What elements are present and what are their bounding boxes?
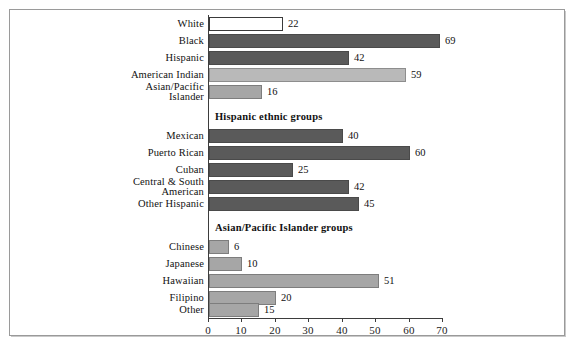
- bar-black: [209, 34, 440, 48]
- axis-tick-label-50: 50: [362, 324, 388, 336]
- axis-tick-70: [442, 318, 443, 322]
- axis-tick-60: [409, 318, 410, 322]
- bar-value-hawaiian: 51: [384, 275, 395, 286]
- axis-tick-label-20: 20: [262, 324, 288, 336]
- group-header-asian-pacific-islander: Asian/Pacific Islander groups: [215, 222, 353, 233]
- bar-label-hispanic: Hispanic: [70, 52, 204, 63]
- bar-value-american-indian: 59: [411, 69, 422, 80]
- chart-figure: 0 10 20 30 40 50 60 70 White 22 Black 69…: [0, 0, 579, 349]
- bar-value-central-south-american: 42: [354, 181, 365, 192]
- bar-label-other: Other: [70, 304, 204, 315]
- bar-hawaiian: [209, 274, 379, 288]
- bar-value-white: 22: [288, 18, 299, 29]
- bar-chinese: [209, 240, 229, 254]
- chart-frame: 0 10 20 30 40 50 60 70 White 22 Black 69…: [9, 9, 565, 336]
- bar-value-black: 69: [445, 35, 456, 46]
- bar-label-asian-pacific-islander-line2: Islander: [70, 92, 204, 103]
- axis-tick-30: [308, 318, 309, 322]
- bar-label-cuban: Cuban: [70, 164, 204, 175]
- bar-label-hawaiian: Hawaiian: [70, 275, 204, 286]
- bar-mexican: [209, 129, 343, 143]
- bar-hispanic: [209, 51, 349, 65]
- axis-tick-20: [275, 318, 276, 322]
- bar-white: [209, 17, 283, 31]
- axis-tick-label-30: 30: [295, 324, 321, 336]
- bar-central-south-american: [209, 180, 349, 194]
- bar-label-black: Black: [70, 35, 204, 46]
- plot-area: 0 10 20 30 40 50 60 70 White 22 Black 69…: [10, 10, 566, 337]
- bar-label-puerto-rican: Puerto Rican: [70, 147, 204, 158]
- bar-label-chinese: Chinese: [70, 241, 204, 252]
- bar-value-hispanic: 42: [354, 52, 365, 63]
- bar-value-other: 15: [264, 304, 275, 315]
- bar-american-indian: [209, 68, 406, 82]
- bar-label-other-hispanic: Other Hispanic: [70, 198, 204, 209]
- bar-asian-pacific-islander: [209, 85, 262, 99]
- bar-value-japanese: 10: [247, 258, 258, 269]
- bar-value-cuban: 25: [298, 164, 309, 175]
- bar-label-filipino: Filipino: [70, 292, 204, 303]
- axis-tick-label-40: 40: [329, 324, 355, 336]
- bar-label-japanese: Japanese: [70, 258, 204, 269]
- bar-label-white: White: [70, 18, 204, 29]
- bar-value-puerto-rican: 60: [415, 147, 426, 158]
- bar-value-chinese: 6: [234, 241, 239, 252]
- bar-value-asian-pacific-islander: 16: [267, 86, 278, 97]
- bar-value-other-hispanic: 45: [364, 198, 375, 209]
- bar-other-hispanic: [209, 197, 359, 211]
- axis-tick-40: [342, 318, 343, 322]
- axis-tick-label-70: 70: [429, 324, 455, 336]
- bar-value-mexican: 40: [348, 130, 359, 141]
- bar-puerto-rican: [209, 146, 410, 160]
- axis-tick-0: [208, 318, 209, 322]
- axis-tick-label-10: 10: [228, 324, 254, 336]
- axis-tick-label-60: 60: [396, 324, 422, 336]
- bar-other: [209, 303, 259, 317]
- bar-label-central-south-american-line2: American: [70, 187, 204, 198]
- bar-cuban: [209, 163, 293, 177]
- bar-label-american-indian: American Indian: [70, 69, 204, 80]
- axis-tick-label-0: 0: [195, 324, 221, 336]
- bar-label-mexican: Mexican: [70, 130, 204, 141]
- axis-tick-10: [241, 318, 242, 322]
- bar-japanese: [209, 257, 242, 271]
- group-header-hispanic: Hispanic ethnic groups: [215, 111, 322, 122]
- value-axis-line: [208, 318, 442, 319]
- axis-tick-50: [375, 318, 376, 322]
- bar-value-filipino: 20: [281, 292, 292, 303]
